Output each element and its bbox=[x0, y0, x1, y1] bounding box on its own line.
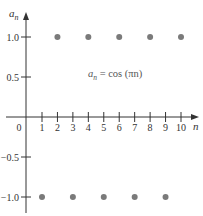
x-tick-label: 7 bbox=[132, 122, 137, 133]
data-point bbox=[178, 34, 184, 40]
y-axis-arrow-icon bbox=[23, 12, 29, 20]
data-point bbox=[54, 34, 60, 40]
data-point bbox=[132, 194, 138, 200]
data-point bbox=[163, 194, 169, 200]
data-point bbox=[101, 194, 107, 200]
x-tick-label: 6 bbox=[117, 122, 122, 133]
x-tick-label: 10 bbox=[176, 122, 186, 133]
data-point bbox=[70, 194, 76, 200]
data-point bbox=[39, 194, 45, 200]
x-tick-label: 1 bbox=[40, 122, 45, 133]
data-point bbox=[85, 34, 91, 40]
x-tick-label: 8 bbox=[148, 122, 153, 133]
axes bbox=[6, 12, 199, 213]
sequence-plot: 123456789101.00.5−0.5−1.0 0annan = cos (… bbox=[0, 0, 203, 216]
y-tick-label: −1.0 bbox=[1, 192, 19, 203]
x-tick-label: 5 bbox=[101, 122, 106, 133]
y-tick-label: 1.0 bbox=[7, 32, 20, 43]
data-point bbox=[147, 34, 153, 40]
data-point bbox=[116, 34, 122, 40]
x-tick-label: 4 bbox=[86, 122, 91, 133]
y-tick-label: 0.5 bbox=[7, 72, 20, 83]
formula-annotation: an = cos (πn) bbox=[88, 68, 143, 82]
x-tick-label: 9 bbox=[163, 122, 168, 133]
x-tick-label: 2 bbox=[55, 122, 60, 133]
y-tick-label: −0.5 bbox=[1, 152, 19, 163]
origin-label: 0 bbox=[17, 122, 22, 133]
x-tick-label: 3 bbox=[70, 122, 75, 133]
x-axis-label: n bbox=[193, 120, 199, 132]
y-axis-label: an bbox=[9, 7, 19, 22]
